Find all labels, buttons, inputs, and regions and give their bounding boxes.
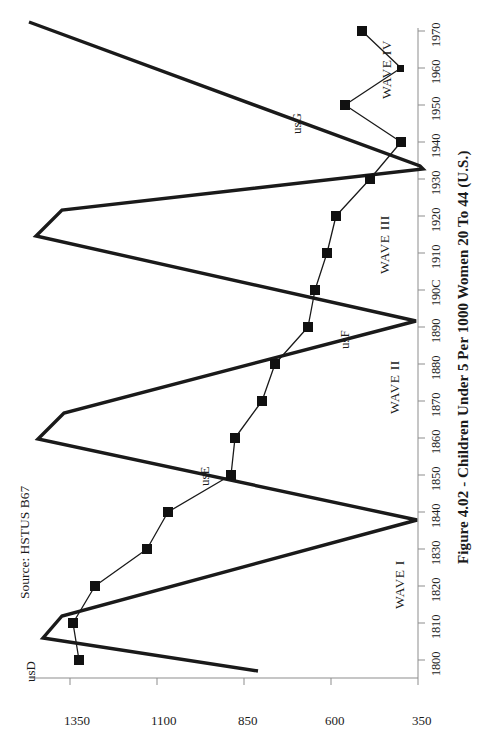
x-tick-label-1920: 1920 xyxy=(430,208,443,232)
x-tick-label-1940: 1940 xyxy=(430,134,443,158)
chart-figure: 1800 1810 1820 1830 1840 1850 1860 1870 … xyxy=(0,0,483,744)
x-tick-label-1960: 1960 xyxy=(430,60,443,84)
series-label-usg: usG xyxy=(290,113,303,134)
x-tick-label-1900: 190C xyxy=(430,280,443,306)
x-tick-label-1840: 1840 xyxy=(430,504,443,528)
x-tick-label-1870: 1870 xyxy=(430,393,443,417)
wave-label-two: WAVE II xyxy=(388,360,402,414)
wave-label-three: WAVE III xyxy=(378,215,392,274)
y-tick-label-350: 350 xyxy=(412,714,432,727)
y-tick-label-850: 850 xyxy=(238,714,258,727)
wave-label-four: WAVE IV xyxy=(380,40,394,99)
x-tick-label-1970: 1970 xyxy=(430,23,443,47)
x-tick-label-1910: 1910 xyxy=(430,245,443,269)
series-label-use: usE xyxy=(198,467,211,487)
source-note: Source: HSTUS B67 xyxy=(18,486,32,599)
y-tick-label-1100: 1100 xyxy=(151,714,177,727)
x-tick-label-1950: 1950 xyxy=(430,97,443,121)
x-tick-label-1810: 1810 xyxy=(430,615,443,639)
rotated-figure-wrapper: 1800 1810 1820 1830 1840 1850 1860 1870 … xyxy=(0,0,483,744)
x-tick-label-1820: 1820 xyxy=(430,578,443,602)
x-tick-label-1830: 1830 xyxy=(430,541,443,565)
x-tick-label-1800: 1800 xyxy=(430,652,443,676)
wave-label-one: WAVE I xyxy=(393,560,407,609)
series-label-usd: usD xyxy=(24,661,37,682)
x-tick-label-1930: 1930 xyxy=(430,171,443,195)
chart-canvas xyxy=(0,0,483,744)
figure-title: Figure 4.02 - Children Under 5 Per 1000 … xyxy=(456,151,471,565)
y-tick-label-1350: 1350 xyxy=(64,714,90,727)
wave-envelope-path xyxy=(29,22,423,671)
y-axis-ticks xyxy=(70,678,418,685)
x-tick-label-1890: 1890 xyxy=(430,319,443,343)
y-tick-label-600: 600 xyxy=(325,714,345,727)
series-label-usf: usF xyxy=(338,330,351,349)
x-tick-label-1860: 1860 xyxy=(430,430,443,454)
x-tick-label-1880: 1880 xyxy=(430,356,443,380)
x-axis-ticks xyxy=(418,31,425,660)
figure-page: 1800 1810 1820 1830 1840 1850 1860 1870 … xyxy=(0,0,483,744)
x-tick-label-1850: 1850 xyxy=(430,467,443,491)
